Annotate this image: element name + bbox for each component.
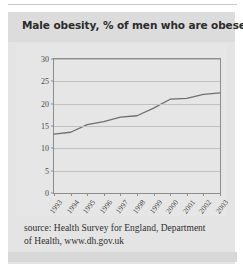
x-axis-tick-label: 1994 <box>64 198 80 215</box>
chart-panel: Male obesity, % of men who are obese 051… <box>8 12 235 264</box>
y-axis-tick-mark <box>51 59 54 60</box>
y-axis-tick-mark <box>51 126 54 127</box>
y-axis-tick-label: 15 <box>41 122 49 131</box>
source-note-line-2: of Health, www.dh.gov.uk <box>24 235 224 248</box>
x-axis-tick-mark <box>120 193 121 196</box>
y-axis-tick-label: 0 <box>45 189 49 198</box>
x-axis-tick-label: 1999 <box>147 198 163 215</box>
x-axis-tick-mark <box>220 193 221 196</box>
x-axis-tick-mark <box>170 193 171 196</box>
plot-card: 0510152025301993199419951996199719981999… <box>16 44 227 216</box>
x-axis-tick-label: 2001 <box>181 198 197 215</box>
y-axis-tick-label: 25 <box>41 77 49 86</box>
gridline <box>54 81 220 82</box>
gridline <box>54 171 220 172</box>
x-axis-tick-mark <box>54 193 55 196</box>
page-bottom-band <box>8 252 237 262</box>
gridline <box>54 59 220 60</box>
figure-root: Male obesity, % of men who are obese 051… <box>0 0 243 272</box>
y-axis-tick-mark <box>51 103 54 104</box>
x-axis-tick-label: 1997 <box>114 198 130 215</box>
x-axis-tick-label: 2002 <box>197 198 213 215</box>
y-axis-tick-label: 5 <box>45 166 49 175</box>
x-axis-tick-label: 1995 <box>81 198 97 215</box>
y-axis-tick-mark <box>51 81 54 82</box>
x-axis-tick-mark <box>154 193 155 196</box>
y-axis-tick-label: 20 <box>41 99 49 108</box>
y-axis-tick-mark <box>51 148 54 149</box>
gridline <box>54 126 220 127</box>
x-axis-tick-mark <box>71 193 72 196</box>
y-axis-tick-label: 10 <box>41 144 49 153</box>
x-axis-tick-mark <box>137 193 138 196</box>
source-note: source: Health Survey for England, Depar… <box>24 222 224 247</box>
gridline <box>54 104 220 105</box>
x-axis-tick-label: 2003 <box>214 198 230 215</box>
y-axis-tick-mark <box>51 170 54 171</box>
plot-area: 0510152025301993199419951996199719981999… <box>53 58 221 194</box>
page-top-rule <box>8 4 237 5</box>
obesity-trend-line <box>54 93 220 134</box>
chart-title-band: Male obesity, % of men who are obese <box>8 12 235 42</box>
y-axis-tick-label: 30 <box>41 55 49 64</box>
x-axis-tick-label: 1998 <box>131 198 147 215</box>
x-axis-tick-mark <box>104 193 105 196</box>
x-axis-tick-label: 2000 <box>164 198 180 215</box>
x-axis-tick-mark <box>87 193 88 196</box>
source-note-line-1: source: Health Survey for England, Depar… <box>24 222 224 235</box>
gridline <box>54 148 220 149</box>
x-axis-tick-mark <box>203 193 204 196</box>
x-axis-tick-label: 1996 <box>98 198 114 215</box>
x-axis-tick-mark <box>187 193 188 196</box>
x-axis-tick-label: 1993 <box>48 198 64 215</box>
chart-title: Male obesity, % of men who are obese <box>22 19 227 31</box>
